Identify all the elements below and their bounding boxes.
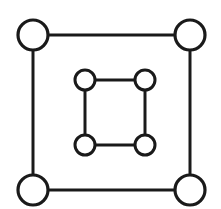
node-circle-outer-tl	[18, 20, 48, 50]
node-circle-inner-br	[135, 135, 155, 155]
node-link-diagram	[0, 0, 221, 209]
node-circle-inner-tl	[75, 70, 95, 90]
node-layer	[18, 20, 205, 205]
node-circle-outer-br	[175, 175, 205, 205]
node-circle-inner-tr	[135, 70, 155, 90]
edge-layer	[33, 35, 190, 190]
diagram-canvas	[0, 0, 221, 209]
node-circle-outer-bl	[18, 175, 48, 205]
node-circle-outer-tr	[175, 20, 205, 50]
node-circle-inner-bl	[75, 135, 95, 155]
